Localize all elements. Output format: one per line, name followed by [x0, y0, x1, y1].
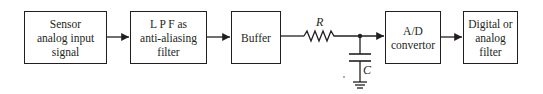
block-adc: A/D convertor: [385, 11, 441, 64]
block-lpf-line-3: filter: [140, 45, 197, 59]
block-filter-line-2: analog: [468, 31, 512, 45]
junction-dot: [358, 34, 362, 38]
block-sensor-line-3: signal: [37, 45, 94, 59]
block-filter-line-1: Digital or: [468, 17, 512, 31]
ground-icon: [353, 82, 367, 88]
block-adc-line-1: A/D: [391, 24, 435, 38]
resistor-label: R: [316, 15, 323, 30]
block-sensor: Sensor analog input signal: [24, 11, 107, 64]
block-filter-line-3: filter: [468, 45, 512, 59]
block-lpf: L P F as anti-aliasing filter: [130, 11, 207, 64]
block-lpf-line-2: anti-aliasing: [140, 31, 197, 45]
block-buffer: Buffer: [231, 11, 281, 64]
block-buffer-line-1: Buffer: [241, 31, 271, 45]
stray-dot: [343, 76, 344, 77]
block-sensor-line-2: analog input: [37, 31, 94, 45]
capacitor-label: C: [363, 63, 371, 78]
block-lpf-line-1: L P F as: [140, 17, 197, 31]
resistor-icon: [304, 31, 337, 41]
block-filter: Digital or analog filter: [463, 11, 518, 64]
block-sensor-line-1: Sensor: [37, 17, 94, 31]
block-adc-line-2: convertor: [391, 38, 435, 52]
